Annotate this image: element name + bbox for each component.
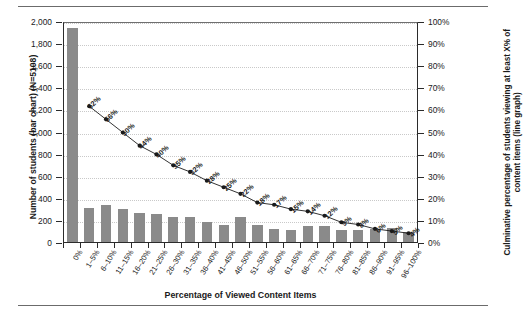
left-tick-mark (56, 88, 62, 89)
right-axis-title: Culminative percentage of students viewi… (503, 27, 523, 257)
right-tick-mark (418, 221, 424, 222)
left-tick-label: 600 (38, 172, 52, 182)
right-axis-tick-labels: 0%10%20%30%40%50%60%70%80%90%100% (420, 22, 466, 243)
left-tick-label: 1,400 (31, 83, 52, 93)
right-tick-label: 100% (428, 17, 449, 27)
right-tick-label: 40% (428, 150, 445, 160)
left-tick-label: 800 (38, 150, 52, 160)
left-tick-label: 0 (47, 238, 52, 248)
left-tick-mark (56, 221, 62, 222)
left-tick-mark (56, 110, 62, 111)
left-tick-mark (56, 199, 62, 200)
right-tick-mark (418, 88, 424, 89)
right-tick-label: 30% (428, 172, 445, 182)
right-tick-label: 70% (428, 83, 445, 93)
line-path (89, 106, 408, 233)
left-tick-mark (56, 133, 62, 134)
left-tick-label: 1,000 (31, 128, 52, 138)
right-tick-mark (418, 155, 424, 156)
left-tick-mark (56, 243, 62, 244)
left-tick-mark (56, 177, 62, 178)
x-axis-tick-labels: 0%1–5%6–10%11–15%16–20%21–25%26–30%31–35… (63, 248, 418, 290)
right-tick-mark (418, 133, 424, 134)
left-tick-label: 1,800 (31, 39, 52, 49)
left-tick-label: 1,600 (31, 61, 52, 71)
right-tick-label: 80% (428, 61, 445, 71)
plot-area: 62%56%50%44%40%35%32%28%25%22%18%17%15%1… (63, 22, 418, 243)
right-tick-mark (418, 177, 424, 178)
left-tick-mark (56, 66, 62, 67)
right-tick-mark (418, 22, 424, 23)
x-tick-mark (418, 243, 419, 248)
left-tick-mark (56, 155, 62, 156)
left-tick-label: 400 (38, 194, 52, 204)
right-tick-label: 90% (428, 39, 445, 49)
line-series (64, 23, 417, 242)
bottom-rule (18, 305, 488, 306)
top-rule (18, 6, 488, 7)
left-tick-label: 2,000 (31, 17, 52, 27)
right-tick-label: 10% (428, 216, 445, 226)
right-tick-label: 0% (428, 238, 440, 248)
right-tick-label: 20% (428, 194, 445, 204)
right-tick-mark (418, 110, 424, 111)
right-tick-label: 50% (428, 128, 445, 138)
left-tick-label: 200 (38, 216, 52, 226)
right-tick-mark (418, 66, 424, 67)
left-axis-tick-labels: 02004006008001,0001,2001,4001,6001,8002,… (0, 22, 58, 243)
right-tick-label: 60% (428, 105, 445, 115)
left-tick-mark (56, 44, 62, 45)
right-tick-mark (418, 199, 424, 200)
x-tick-label: 0% (72, 248, 85, 262)
right-tick-mark (418, 44, 424, 45)
left-tick-mark (56, 22, 62, 23)
left-tick-label: 1,200 (31, 105, 52, 115)
x-axis-title: Percentage of Viewed Content Items (63, 290, 418, 300)
